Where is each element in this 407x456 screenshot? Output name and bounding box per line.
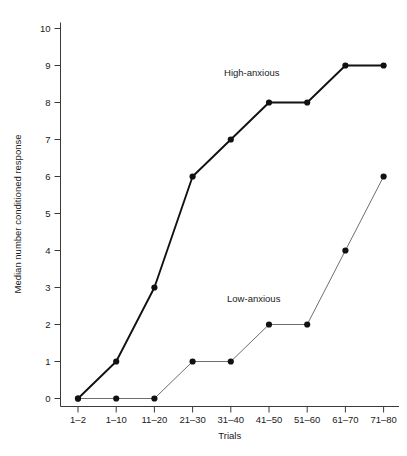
line-chart: 012345678910 1–21–1011–2021–3031–4041–50… xyxy=(0,0,407,456)
x-axis-tick-label: 11–20 xyxy=(142,414,168,425)
y-axis-tick-label: 0 xyxy=(45,393,50,404)
data-point-marker xyxy=(228,136,234,142)
data-point-marker xyxy=(304,99,310,105)
data-point-marker xyxy=(151,284,157,290)
y-axis-tick-label: 4 xyxy=(45,245,50,256)
x-axis-tick-label: 51–60 xyxy=(294,414,320,425)
data-point-marker xyxy=(266,99,272,105)
x-axis-tick-label: 71–80 xyxy=(370,414,396,425)
y-axis-tick-label: 6 xyxy=(45,171,50,182)
data-point-marker xyxy=(151,395,157,401)
x-axis-tick-label: 41–50 xyxy=(256,414,282,425)
x-axis-tick-label: 31–40 xyxy=(218,414,244,425)
y-axis-tick-label: 5 xyxy=(45,208,50,219)
data-point-marker xyxy=(381,62,387,68)
data-point-marker xyxy=(266,321,272,327)
y-axis-tick-label: 8 xyxy=(45,97,50,108)
series-high-anxious xyxy=(75,62,387,401)
chart-container: 012345678910 1–21–1011–2021–3031–4041–50… xyxy=(0,0,407,456)
data-point-marker xyxy=(228,358,234,364)
series-label-low-anxious: Low-anxious xyxy=(227,293,281,304)
x-axis: 1–21–1011–2021–3031–4041–5051–6061–7071–… xyxy=(61,407,400,426)
y-axis-tick-label: 2 xyxy=(45,319,50,330)
series-label-high-anxious: High-anxious xyxy=(224,67,280,78)
data-point-marker xyxy=(381,173,387,179)
data-point-marker xyxy=(342,247,348,253)
series-low-anxious xyxy=(75,173,387,401)
y-axis-tick-label: 3 xyxy=(45,282,50,293)
data-point-marker xyxy=(113,395,119,401)
y-axis-tick-label: 7 xyxy=(45,134,50,145)
x-axis-tick-label: 21–30 xyxy=(179,414,205,425)
data-point-marker xyxy=(342,62,348,68)
y-axis: 012345678910 xyxy=(40,23,61,407)
x-axis-tick-label: 1–10 xyxy=(106,414,127,425)
data-point-marker xyxy=(190,173,196,179)
data-point-marker xyxy=(190,358,196,364)
y-axis-title: Median number conditioned response xyxy=(12,135,23,294)
data-point-marker xyxy=(75,395,81,401)
y-axis-tick-label: 1 xyxy=(45,356,50,367)
x-axis-title: Trials xyxy=(218,430,241,441)
series-line xyxy=(78,66,384,399)
y-axis-tick-label: 9 xyxy=(45,60,50,71)
data-point-marker xyxy=(113,358,119,364)
series-layer xyxy=(75,62,387,401)
x-axis-tick-label: 61–70 xyxy=(332,414,358,425)
data-point-marker xyxy=(304,321,310,327)
series-line xyxy=(78,177,384,399)
x-axis-tick-label: 1–2 xyxy=(70,414,86,425)
y-axis-tick-label: 10 xyxy=(40,23,51,34)
